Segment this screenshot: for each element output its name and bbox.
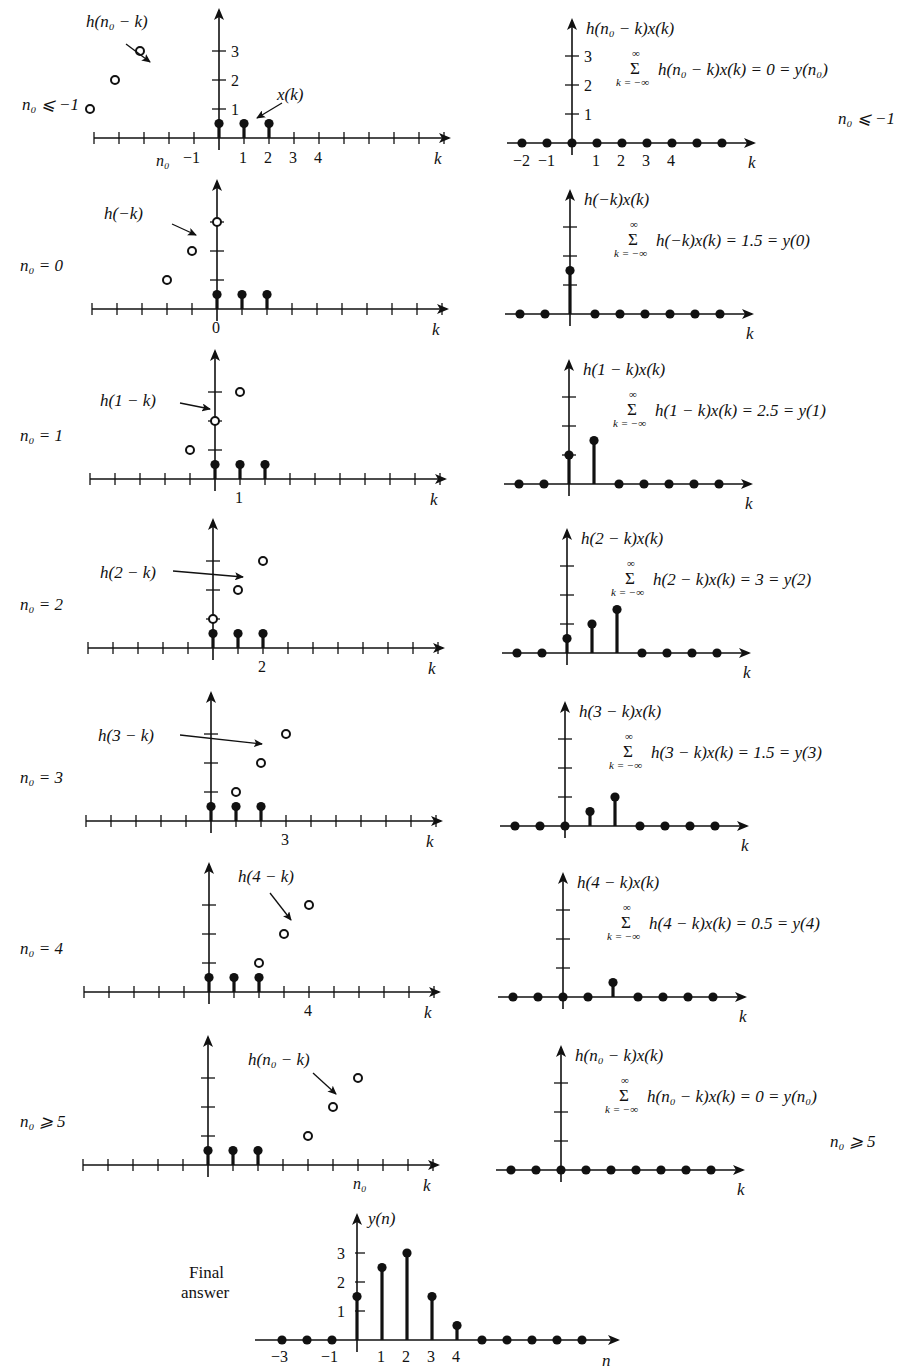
- value-tick-label: 3: [584, 48, 592, 65]
- value-tick-label: 3: [231, 43, 239, 60]
- sum-equation: h(−k)x(k) = 1.5 = y(0): [656, 231, 810, 250]
- product-sample-dot: [510, 821, 519, 830]
- rows-layer: kh(n₀ − k)n₀−11234123x(k)n₀ ⩽ −1kh(n₀ − …: [20, 10, 895, 1199]
- y-sample-dot: [377, 1263, 386, 1272]
- h-sample-open-circle: [329, 1103, 337, 1111]
- product-sample-dot: [587, 619, 596, 628]
- tick-label: 1: [592, 152, 600, 169]
- k-axis-label: k: [428, 659, 436, 678]
- tick-label: 1: [235, 489, 243, 506]
- sum-lower-limit: k = −∞: [616, 76, 649, 88]
- x-sample-dot: [256, 802, 265, 811]
- x-sample-dot: [258, 629, 267, 638]
- h-sample-open-circle: [234, 586, 242, 594]
- tick-label: 2: [258, 658, 266, 675]
- sum-lower-limit: k = −∞: [613, 417, 646, 429]
- x-sample-dot: [206, 802, 215, 811]
- final-answer-plot: 123−3−11234y(n)nFinalanswer: [181, 1209, 618, 1370]
- product-sample-dot: [506, 1165, 515, 1174]
- product-sample-dot: [664, 479, 673, 488]
- product-sample-dot: [712, 648, 721, 657]
- tick-label: −1: [183, 149, 200, 166]
- case-label: n₀ ⩾ 5: [20, 1112, 65, 1131]
- tick-label: 2: [264, 149, 272, 166]
- product-sample-dot: [585, 807, 594, 816]
- h-sample-open-circle: [186, 446, 194, 454]
- product-sample-dot: [710, 821, 719, 830]
- value-tick-label: 2: [584, 77, 592, 94]
- h-sample-open-circle: [163, 276, 171, 284]
- sum-equation: h(3 − k)x(k) = 1.5 = y(3): [651, 743, 822, 762]
- product-sample-dot: [660, 821, 669, 830]
- sum-lower-limit: k = −∞: [609, 759, 642, 771]
- sum-upper-limit: ∞: [625, 730, 633, 742]
- x-sample-dot: [204, 973, 213, 982]
- product-sample-dot: [560, 821, 569, 830]
- k-axis-label: k: [745, 494, 753, 513]
- h-sample-open-circle: [304, 1132, 312, 1140]
- product-sample-dot: [683, 992, 692, 1001]
- y-sample-dot: [477, 1335, 486, 1344]
- product-sample-dot: [562, 634, 571, 643]
- h-shifted-label: h(1 − k): [100, 391, 156, 410]
- right-panel: kh(2 − k)x(k)Σ∞k = −∞h(2 − k)x(k) = 3 = …: [502, 529, 811, 682]
- product-sample-dot: [706, 1165, 715, 1174]
- x-sample-dot: [212, 290, 221, 299]
- product-sample-dot: [656, 1165, 665, 1174]
- sum-upper-limit: ∞: [632, 47, 640, 59]
- right-panel: kh(1 − k)x(k)Σ∞k = −∞h(1 − k)x(k) = 2.5 …: [504, 360, 826, 513]
- h-sample-open-circle: [255, 959, 263, 967]
- n-axis-label: n: [602, 1351, 611, 1370]
- tick-label: 3: [281, 831, 289, 848]
- left-panel: kh(4 − k)4: [84, 864, 439, 1022]
- x-sample-dot: [264, 119, 273, 128]
- x-sample-dot: [233, 629, 242, 638]
- product-sample-dot: [708, 992, 717, 1001]
- y-sample-dot: [302, 1335, 311, 1344]
- product-sample-dot: [681, 1165, 690, 1174]
- tick-label: 4: [667, 152, 675, 169]
- product-label: h(n₀ − k)x(k): [586, 19, 675, 38]
- product-sample-dot: [633, 992, 642, 1001]
- h-shifted-label: h(3 − k): [98, 726, 154, 745]
- convolution-figure: kh(n₀ − k)n₀−11234123x(k)n₀ ⩽ −1kh(n₀ − …: [0, 0, 913, 1371]
- x-label: x(k): [276, 85, 304, 104]
- x-sample-dot: [229, 973, 238, 982]
- tick-label: 2: [617, 152, 625, 169]
- product-sample-dot: [715, 309, 724, 318]
- product-sample-dot: [658, 992, 667, 1001]
- product-sample-dot: [662, 648, 671, 657]
- x-sample-dot: [262, 290, 271, 299]
- sum-equation: h(2 − k)x(k) = 3 = y(2): [653, 570, 811, 589]
- h-sample-open-circle: [213, 218, 221, 226]
- right-panel: kh(−k)x(k)Σ∞k = −∞h(−k)x(k) = 1.5 = y(0): [505, 190, 810, 343]
- x-sample-dot: [210, 460, 219, 469]
- sum-lower-limit: k = −∞: [614, 247, 647, 259]
- value-tick-label: 1: [337, 1303, 345, 1320]
- product-sample-dot: [717, 138, 726, 147]
- tick-label: −3: [271, 1348, 288, 1365]
- h-sample-open-circle: [211, 417, 219, 425]
- y-sample-dot: [452, 1321, 461, 1330]
- x-sample-dot: [231, 802, 240, 811]
- product-sample-dot: [581, 1165, 590, 1174]
- h-shifted-label: h(4 − k): [238, 867, 294, 886]
- right-panel: kh(n₀ − k)x(k)Σ∞k = −∞h(n₀ − k)x(k) = 0 …: [507, 19, 828, 172]
- product-sample-dot: [665, 309, 674, 318]
- y-sample-dot: [327, 1335, 336, 1344]
- product-sample-dot: [590, 309, 599, 318]
- left-panel: kh(n₀ − k)n₀: [83, 1037, 438, 1195]
- product-sample-dot: [642, 138, 651, 147]
- h-sample-open-circle: [280, 930, 288, 938]
- sum-lower-limit: k = −∞: [605, 1103, 638, 1115]
- product-sample-dot: [614, 479, 623, 488]
- right-panel: kh(4 − k)x(k)Σ∞k = −∞h(4 − k)x(k) = 0.5 …: [498, 873, 820, 1026]
- k-axis-label: k: [426, 832, 434, 851]
- k-axis-label: k: [737, 1180, 745, 1199]
- product-sample-dot: [514, 479, 523, 488]
- x-sample-dot: [214, 119, 223, 128]
- value-tick-label: 1: [231, 101, 239, 118]
- k-axis-label: k: [430, 490, 438, 509]
- pointer-arrow: [180, 735, 262, 744]
- x-sample-dot: [208, 629, 217, 638]
